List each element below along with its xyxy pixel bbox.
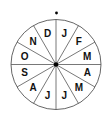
month-label: F bbox=[76, 36, 82, 47]
month-label: A bbox=[29, 82, 36, 93]
month-label: J bbox=[45, 90, 51, 101]
month-label: O bbox=[21, 51, 29, 62]
month-label: N bbox=[29, 36, 36, 47]
month-label: M bbox=[83, 51, 91, 62]
center-hub-dot bbox=[54, 62, 59, 67]
month-label: A bbox=[84, 67, 91, 78]
month-label: M bbox=[75, 82, 83, 93]
top-marker-dot bbox=[55, 12, 58, 15]
month-wheel-diagram: JFMAMJJASOND bbox=[0, 0, 111, 124]
month-label: D bbox=[44, 28, 51, 39]
month-label: J bbox=[62, 90, 68, 101]
month-label: S bbox=[21, 67, 28, 78]
month-label: J bbox=[62, 28, 68, 39]
